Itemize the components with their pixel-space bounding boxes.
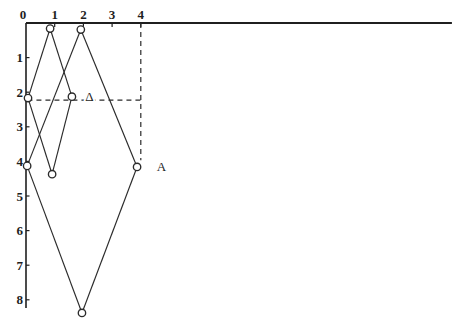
x-axis-tick-label: 4 <box>138 7 145 22</box>
y-axis-tick-label: 8 <box>17 292 24 307</box>
data-point-marker <box>24 94 31 101</box>
y-axis-tick-label: 4 <box>17 154 24 169</box>
data-point-marker <box>23 162 30 169</box>
figure-background <box>0 0 454 336</box>
y-axis-tick-label: 3 <box>17 119 24 134</box>
x-axis-tick-label: 2 <box>80 7 87 22</box>
figure-canvas: 0123412345678ΔA <box>0 0 454 336</box>
y-axis-tick-label: 1 <box>17 50 24 65</box>
a-point-label: A <box>157 159 167 174</box>
scanned-figure-page: 0123412345678ΔA <box>0 0 454 336</box>
y-axis-tick-label: 2 <box>17 85 24 100</box>
y-axis-tick-label: 5 <box>17 189 24 204</box>
y-axis-tick-label: 6 <box>17 223 24 238</box>
data-point-marker <box>68 93 75 100</box>
x-axis-tick-label: 3 <box>109 7 116 22</box>
y-axis-tick-label: 7 <box>17 258 24 273</box>
data-point-marker <box>48 171 55 178</box>
data-point-marker <box>133 163 140 170</box>
x-axis-tick-label: 1 <box>51 7 58 22</box>
delta-point-label: Δ <box>85 89 93 104</box>
data-point-marker <box>46 25 53 32</box>
x-axis-tick-label: 0 <box>20 7 27 22</box>
data-point-marker <box>77 26 84 33</box>
data-point-marker <box>78 309 85 316</box>
